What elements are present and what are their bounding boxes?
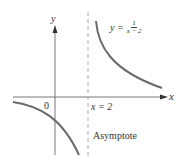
y-axis-arrow-icon [53,25,58,33]
function-lhs: y = [110,23,124,33]
x-axis-arrow-icon [160,95,168,100]
origin-label: 0 [44,101,49,111]
fraction-denominator: x − 2 [126,28,143,35]
asymptote-equation: x = 2 [91,102,112,112]
graph-canvas [0,0,180,165]
y-axis-label: y [51,14,55,24]
x-axis-label: x [169,91,174,102]
function-label: y = 1 x − 2 [110,20,143,35]
function-fraction: 1 x − 2 [126,20,143,35]
asymptote-label: Asymptote [93,131,137,141]
